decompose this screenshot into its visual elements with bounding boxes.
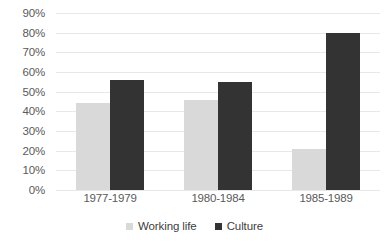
- bar-culture[interactable]: [110, 80, 144, 190]
- y-axis-tick-label: 0%: [29, 184, 45, 196]
- bar-working-life[interactable]: [184, 100, 218, 190]
- legend-label: Culture: [227, 220, 263, 232]
- x-axis-tick-label: 1985-1989: [272, 192, 380, 210]
- gridline: [56, 190, 380, 191]
- bar-group: [164, 13, 272, 190]
- chart-legend: Working lifeCulture: [0, 216, 389, 236]
- legend-swatch-icon: [126, 223, 133, 230]
- legend-item[interactable]: Working life: [126, 220, 197, 232]
- y-axis-tick-label: 60%: [23, 66, 45, 78]
- bar-culture[interactable]: [218, 82, 252, 190]
- legend-swatch-icon: [215, 223, 222, 230]
- bar-working-life[interactable]: [76, 103, 110, 190]
- bar-culture[interactable]: [326, 33, 360, 190]
- y-axis-tick-label: 90%: [23, 7, 45, 19]
- y-axis-tick-label: 40%: [23, 105, 45, 117]
- x-axis: 1977-19791980-19841985-1989: [56, 192, 380, 210]
- bar-group: [56, 13, 164, 190]
- legend-label: Working life: [138, 220, 197, 232]
- x-axis-tick-label: 1980-1984: [164, 192, 272, 210]
- legend-item[interactable]: Culture: [215, 220, 263, 232]
- bar-working-life[interactable]: [292, 149, 326, 190]
- x-axis-tick-label: 1977-1979: [56, 192, 164, 210]
- bars-layer: [56, 13, 380, 190]
- y-axis: 90%80%70%60%50%40%30%20%10%0%: [0, 13, 50, 190]
- y-axis-tick-label: 50%: [23, 86, 45, 98]
- y-axis-tick-label: 10%: [23, 164, 45, 176]
- y-axis-tick-label: 30%: [23, 125, 45, 137]
- bar-chart: 90%80%70%60%50%40%30%20%10%0% 1977-19791…: [0, 0, 389, 242]
- y-axis-tick-label: 80%: [23, 27, 45, 39]
- y-axis-tick-label: 70%: [23, 46, 45, 58]
- y-axis-tick-label: 20%: [23, 145, 45, 157]
- bar-group: [272, 13, 380, 190]
